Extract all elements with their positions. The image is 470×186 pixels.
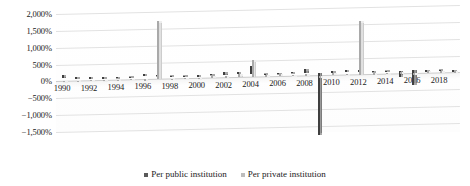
bar-side-face xyxy=(157,21,159,79)
bar-public-2013 xyxy=(372,71,377,72)
bar-public-1998 xyxy=(170,76,175,77)
y-axis-tick-label: −500% xyxy=(28,93,52,103)
bar-public-2008 xyxy=(304,69,309,73)
x-axis-tick-label: 1996 xyxy=(135,81,152,91)
bar-side-face xyxy=(413,73,415,74)
x-axis-tick-label: 1994 xyxy=(108,82,125,92)
bar-private-1995 xyxy=(130,79,135,80)
bar-public-2009 xyxy=(318,73,323,135)
bar-side-face xyxy=(373,73,375,74)
bar-private-1990 xyxy=(63,81,68,82)
bar-side-face xyxy=(305,74,307,76)
bar-side-face xyxy=(223,72,225,74)
x-axis-tick-label: 2018 xyxy=(431,75,448,85)
y-axis-tick-label: 0% xyxy=(41,76,52,86)
bar-private-2006 xyxy=(279,74,284,76)
bar-side-face xyxy=(279,74,281,76)
bar-side-face xyxy=(238,74,240,78)
bar-private-2011 xyxy=(346,74,351,75)
bar-side-face xyxy=(454,71,456,72)
legend-item[interactable]: Per public institution xyxy=(144,169,227,180)
bar-side-face xyxy=(359,21,361,75)
bar-side-face xyxy=(372,71,374,72)
bar-side-face xyxy=(143,74,145,76)
y-axis-tick-label: 500% xyxy=(33,60,52,70)
bar-private-2016 xyxy=(413,73,418,74)
bar-public-1995 xyxy=(129,77,134,78)
bar-private-2010 xyxy=(332,73,337,76)
bar-side-face xyxy=(400,72,402,74)
y-axis-tick-label: −1,000% xyxy=(22,110,52,120)
chart-container: 2,000%1,500%1,000%500%0%−500%−1,000%−1,5… xyxy=(0,0,470,186)
legend-swatch-icon xyxy=(144,173,148,177)
bar-side-face xyxy=(75,77,77,78)
legend-label: Per public institution xyxy=(151,169,227,180)
bar-private-1997 xyxy=(157,21,162,79)
bar-private-2013 xyxy=(373,73,378,74)
bar-private-2009 xyxy=(319,76,324,78)
bar-side-face xyxy=(211,76,213,78)
bar-private-2017 xyxy=(427,71,432,73)
bar-private-1999 xyxy=(184,78,189,79)
bar-public-1990 xyxy=(62,75,67,78)
bar-side-face xyxy=(184,78,186,79)
bar-side-face xyxy=(144,79,146,80)
bar-public-1991 xyxy=(75,77,80,78)
y-axis-tick-label: 1,000% xyxy=(26,43,52,53)
x-axis-labels: 1990199219941996199820002002200420062008… xyxy=(56,0,470,186)
x-axis-tick-label: 2002 xyxy=(215,80,232,90)
x-axis-tick-label: 2006 xyxy=(269,78,286,88)
x-axis-tick-label: 2008 xyxy=(296,78,313,88)
bar-private-2000 xyxy=(198,78,203,79)
y-axis-labels: 2,000%1,500%1,000%500%0%−500%−1,000%−1,5… xyxy=(0,0,54,186)
bar-side-face xyxy=(332,73,334,76)
x-axis-tick-label: 1998 xyxy=(161,81,178,91)
bar-side-face xyxy=(197,75,199,76)
bar-side-face xyxy=(117,80,119,81)
x-axis-tick-label: 2004 xyxy=(242,79,259,89)
bar-side-face xyxy=(319,76,321,78)
bar-side-face xyxy=(198,78,200,79)
bar-private-2018 xyxy=(440,71,445,73)
bar-side-face xyxy=(130,79,132,80)
x-axis-tick-label: 2014 xyxy=(377,76,394,86)
bar-side-face xyxy=(318,73,320,135)
x-axis-tick-label: 2012 xyxy=(350,77,367,87)
bar-side-face xyxy=(89,77,91,78)
bar-private-2004 xyxy=(252,60,257,78)
bar-private-2012 xyxy=(359,21,364,75)
y-axis-tick-label: −1,500% xyxy=(22,127,52,137)
bar-public-2000 xyxy=(197,75,202,76)
bar-private-2005 xyxy=(265,75,270,76)
bar-public-1994 xyxy=(116,77,121,78)
bar-side-face xyxy=(252,60,254,78)
bar-side-face xyxy=(62,75,64,78)
bar-side-face xyxy=(346,74,348,75)
bar-private-1998 xyxy=(171,79,176,80)
chart-legend: Per public institutionPer private instit… xyxy=(0,169,470,180)
legend-item[interactable]: Per private institution xyxy=(241,169,326,180)
bar-private-1994 xyxy=(117,80,122,81)
bar-side-face xyxy=(304,69,306,73)
bar-private-1996 xyxy=(144,79,149,80)
bar-private-2014 xyxy=(386,73,391,74)
legend-swatch-icon xyxy=(241,173,245,177)
bar-side-face xyxy=(129,77,131,78)
bar-private-2003 xyxy=(238,74,243,78)
bar-private-2007 xyxy=(292,75,297,76)
bar-side-face xyxy=(345,70,347,72)
bar-private-2001 xyxy=(211,76,216,78)
bar-private-1991 xyxy=(77,81,82,82)
x-axis-tick-label: 2010 xyxy=(323,77,340,87)
bar-side-face xyxy=(292,75,294,76)
bar-side-face xyxy=(171,79,173,80)
y-axis-tick-label: 1,500% xyxy=(26,26,52,36)
bar-side-face xyxy=(116,77,118,78)
bar-private-2008 xyxy=(305,74,310,76)
bar-side-face xyxy=(225,76,227,77)
bar-public-2011 xyxy=(345,70,350,72)
y-axis-tick-label: 2,000% xyxy=(26,9,52,19)
bar-private-2002 xyxy=(225,76,230,77)
bar-private-1992 xyxy=(90,80,95,81)
bar-private-2019 xyxy=(454,71,459,72)
